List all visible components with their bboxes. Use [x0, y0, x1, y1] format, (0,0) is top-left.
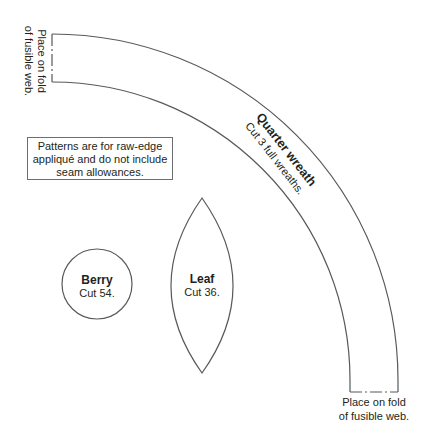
top-fold-line1: Place on fold	[36, 29, 48, 93]
pattern-canvas: Place on fold of fusible web. Quarter wr…	[0, 0, 429, 441]
note-line3: seam allowances.	[28, 166, 172, 179]
bottom-fold-line2: of fusible web.	[339, 410, 409, 422]
seam-allowance-note: Patterns are for raw-edge appliqué and d…	[27, 137, 173, 180]
top-fold-label: Place on fold of fusible web.	[23, 26, 48, 96]
quarter-wreath-shape	[52, 34, 398, 392]
note-line1: Patterns are for raw-edge	[28, 140, 172, 153]
leaf-instruction: Cut 36.	[184, 286, 219, 298]
berry-title: Berry	[81, 273, 113, 287]
bottom-fold-line1: Place on fold	[342, 396, 406, 408]
wreath-inner-arc	[52, 82, 350, 392]
note-line2: appliqué and do not include	[28, 153, 172, 166]
berry-instruction: Cut 54.	[79, 287, 114, 299]
wreath-outer-arc	[52, 34, 398, 392]
wreath-label: Quarter wreath Cut 3 full wreaths.	[243, 110, 319, 197]
leaf-title: Leaf	[190, 272, 216, 286]
top-fold-line2: of fusible web.	[23, 26, 35, 96]
